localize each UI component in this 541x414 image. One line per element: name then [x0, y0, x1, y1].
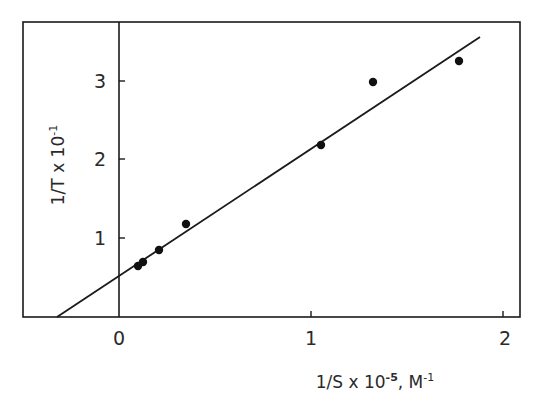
y-tick-label-2: 2	[94, 148, 106, 170]
x-tick-label-1: 1	[305, 327, 317, 349]
y-ticks	[119, 81, 125, 238]
x-ticks	[311, 311, 503, 317]
data-point	[369, 78, 377, 86]
data-points	[134, 57, 463, 270]
x-tick-label-2: 2	[499, 327, 511, 349]
y-tick-label-3: 3	[94, 70, 106, 92]
x-axis-title: 1/S x 10-5, M-1	[316, 371, 435, 392]
data-point	[455, 57, 463, 65]
data-point	[155, 246, 163, 254]
data-point	[182, 220, 190, 228]
fit-line	[57, 37, 480, 317]
data-point	[139, 258, 147, 266]
y-axis-title: 1/T x 10-1	[47, 125, 68, 205]
y-tick-label-1: 1	[94, 227, 106, 249]
chart: 1 2 3 0 1 2 1/S x 10-5, M-1 1/T x 10-1	[0, 0, 541, 414]
data-point	[317, 141, 325, 149]
x-tick-label-0: 0	[113, 327, 125, 349]
